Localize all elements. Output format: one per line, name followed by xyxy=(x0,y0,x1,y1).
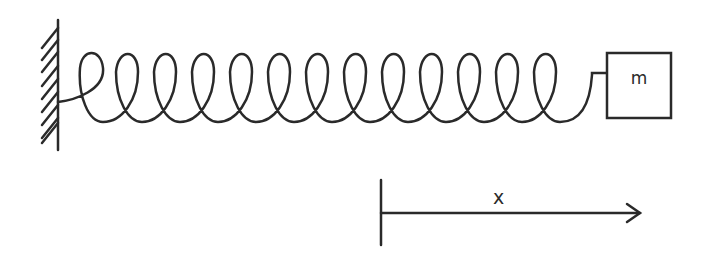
mass-label: m xyxy=(607,68,671,88)
coil-spring-icon xyxy=(58,53,607,122)
displacement-label: x xyxy=(493,186,504,208)
hatched-wall-icon xyxy=(42,20,58,150)
displacement-axis xyxy=(381,180,640,245)
spring-mass-diagram xyxy=(0,0,705,266)
